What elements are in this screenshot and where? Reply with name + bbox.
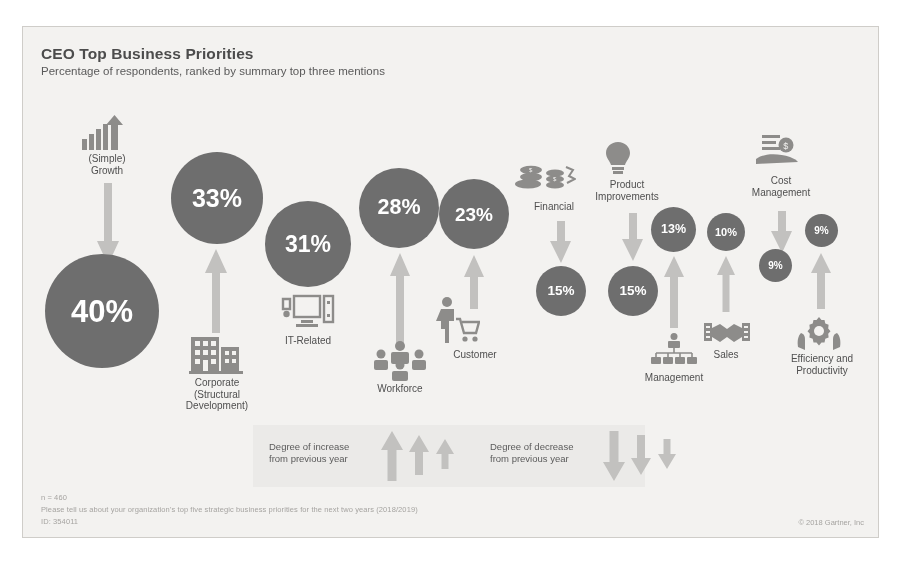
bubble-label-growth: (Simple) Growth <box>71 153 143 176</box>
bubble-cost-management[interactable]: 9% <box>759 249 792 282</box>
bubble-label-workforce: Workforce <box>359 383 441 395</box>
bubble-value-growth: 40% <box>71 296 133 327</box>
computer-icon <box>281 293 335 329</box>
increase-arrow-efficiency <box>810 253 832 309</box>
bubble-value-efficiency: 9% <box>814 226 828 236</box>
lightbulb-head-icon <box>601 141 635 175</box>
bubble-sales[interactable]: 10% <box>707 213 745 251</box>
shopping-cart-icon <box>436 297 480 345</box>
footer-question: Please tell us about your organization's… <box>41 505 418 514</box>
bubble-value-corporate: 33% <box>192 186 242 211</box>
bubble-value-management: 13% <box>661 223 686 236</box>
bubble-value-sales: 10% <box>715 227 737 238</box>
decrease-arrow-cost-management <box>771 211 793 253</box>
bubble-label-cost-management: Cost Management <box>747 175 815 198</box>
increase-arrow-corporate <box>203 249 229 333</box>
bubble-label-product-improvements: Product Improvements <box>584 179 670 202</box>
bubble-value-cost-management: 9% <box>768 261 782 271</box>
bubble-label-efficiency: Efficiency and Productivity <box>779 353 865 376</box>
growth-bars-icon <box>81 115 123 151</box>
gear-in-hands-icon <box>797 315 841 351</box>
bubble-corporate[interactable]: 33% <box>171 152 263 244</box>
footer-n: n = 460 <box>41 493 67 502</box>
increase-arrow-management <box>663 256 685 328</box>
footer-copyright: © 2018 Gartner, Inc <box>798 518 864 527</box>
legend-increase-label: Degree of increase from previous year <box>269 441 377 465</box>
bubble-label-sales: Sales <box>695 349 757 361</box>
bubble-label-corporate: Corporate (Structural Development) <box>163 377 271 412</box>
office-building-icon <box>189 333 243 375</box>
bubble-value-customer: 23% <box>455 205 493 224</box>
bubble-financial[interactable]: 15% <box>536 266 586 316</box>
bubble-it-related[interactable]: 31% <box>265 201 351 287</box>
bubble-value-it-related: 31% <box>285 233 331 256</box>
infographic-slide: CEO Top Business Priorities Percentage o… <box>22 26 879 538</box>
page-subtitle: Percentage of respondents, ranked by sum… <box>41 65 385 77</box>
invoice-dollar-icon: $ <box>756 135 804 169</box>
page-title: CEO Top Business Priorities <box>41 45 254 63</box>
bubble-product-improvements[interactable]: 15% <box>608 266 658 316</box>
bubble-growth[interactable]: 40% <box>45 254 159 368</box>
legend-decrease-label: Degree of decrease from previous year <box>490 441 600 465</box>
handshake-icon <box>704 319 750 345</box>
bubble-efficiency[interactable]: 9% <box>805 214 838 247</box>
bubble-label-it-related: IT-Related <box>266 335 350 347</box>
bubble-customer[interactable]: 23% <box>439 179 509 249</box>
bubble-label-customer: Customer <box>435 349 515 361</box>
decrease-arrow-financial <box>550 221 572 263</box>
legend-decrease-arrows <box>601 431 681 481</box>
decrease-arrow-product-improvements <box>622 213 644 261</box>
increase-arrow-sales <box>716 256 736 312</box>
bubble-workforce[interactable]: 28% <box>359 168 439 248</box>
svg-text:$: $ <box>783 141 788 151</box>
coins-icon: $$ <box>514 163 576 197</box>
bubble-management[interactable]: 13% <box>651 207 696 252</box>
bubble-value-financial: 15% <box>547 284 574 298</box>
increase-arrow-workforce <box>388 253 412 343</box>
bubble-value-product-improvements: 15% <box>619 284 646 298</box>
footer-id: ID: 354011 <box>41 517 78 526</box>
org-chart-icon <box>651 333 697 365</box>
decrease-arrow-growth <box>95 183 121 265</box>
bubble-value-workforce: 28% <box>377 197 420 219</box>
bubble-label-management: Management <box>631 372 717 384</box>
legend-increase-arrows <box>379 431 459 481</box>
bubble-label-financial: Financial <box>521 201 587 213</box>
people-group-icon <box>374 341 426 381</box>
